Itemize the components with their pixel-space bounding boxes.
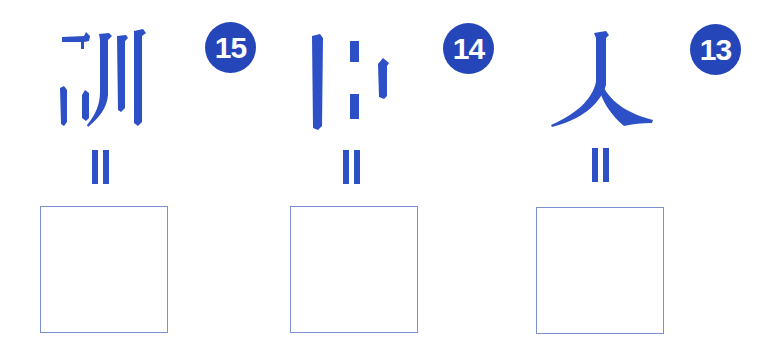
- equals-sign-vertical: [592, 148, 610, 182]
- equals-bar: [354, 150, 360, 184]
- answer-box[interactable]: [536, 207, 664, 334]
- equals-bar: [592, 148, 598, 182]
- equals-bar: [603, 148, 609, 182]
- equals-sign-vertical: [343, 150, 361, 184]
- puzzle-item-13: 13: [0, 0, 260, 360]
- answer-box[interactable]: [290, 206, 418, 333]
- equals-bar: [343, 150, 349, 184]
- question-number-badge: 13: [690, 24, 741, 75]
- kanji-glyph-hito: [0, 0, 777, 140]
